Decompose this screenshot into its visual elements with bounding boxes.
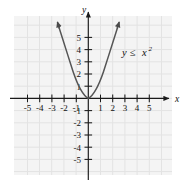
x-axis-label: x bbox=[174, 94, 180, 104]
y-tick-label: -5 bbox=[74, 155, 82, 165]
y-axis-label: y bbox=[81, 5, 87, 15]
y-tick-label: 4 bbox=[77, 45, 82, 55]
x-tick-label: 2 bbox=[110, 103, 115, 113]
inequality-base: y bbox=[121, 47, 127, 58]
x-tick-label: -4 bbox=[36, 103, 44, 113]
x-tick-label: -5 bbox=[24, 103, 32, 113]
y-tick-label: -4 bbox=[74, 143, 82, 153]
x-tick-label: 3 bbox=[123, 103, 128, 113]
inequality-operator: ≤ bbox=[130, 47, 136, 58]
coordinate-plane-svg: -5 -4 -3 -2 -1 1 2 3 4 5 5 4 3 2 1 -1 -2… bbox=[0, 0, 185, 187]
y-tick-label: 5 bbox=[77, 33, 82, 43]
x-tick-label: 4 bbox=[135, 103, 140, 113]
y-tick-label: 2 bbox=[77, 69, 82, 79]
y-tick-label: -1 bbox=[74, 106, 82, 116]
grid-panel bbox=[14, 16, 172, 175]
inequality-exponent: 2 bbox=[149, 45, 153, 53]
inequality-variable: x bbox=[141, 47, 147, 58]
y-tick-label: -3 bbox=[74, 130, 82, 140]
x-tick-label: 1 bbox=[98, 103, 103, 113]
x-tick-label: -3 bbox=[48, 103, 56, 113]
graph-figure: -5 -4 -3 -2 -1 1 2 3 4 5 5 4 3 2 1 -1 -2… bbox=[0, 0, 185, 187]
y-tick-label: 3 bbox=[77, 57, 82, 67]
x-tick-label: -2 bbox=[60, 103, 68, 113]
x-tick-label: 5 bbox=[147, 103, 152, 113]
y-tick-label: -2 bbox=[74, 118, 82, 128]
